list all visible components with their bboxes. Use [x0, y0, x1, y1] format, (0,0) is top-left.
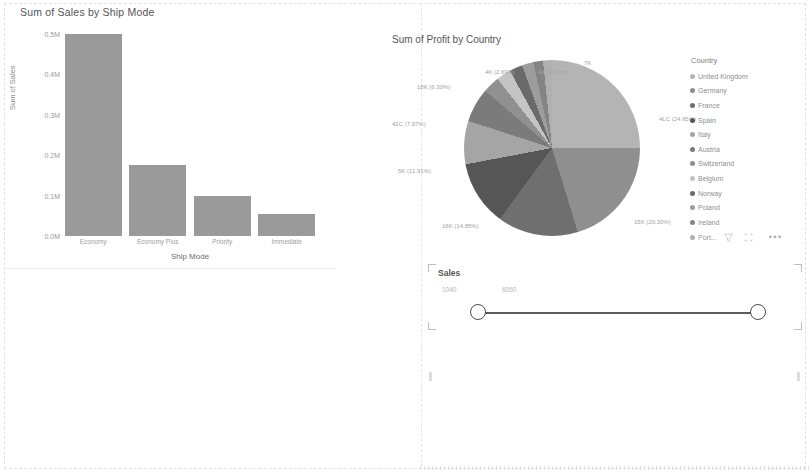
- bar[interactable]: [129, 165, 186, 236]
- bar-chart-x-axis-title: Ship Mode: [61, 252, 319, 261]
- filter-icon[interactable]: [723, 232, 734, 243]
- legend-swatch: [690, 147, 695, 152]
- legend-swatch: [690, 161, 695, 166]
- slicer-slider-track[interactable]: [478, 312, 758, 314]
- horizontal-scrollbar[interactable]: [420, 466, 810, 470]
- legend-item-belgium[interactable]: Belgium: [690, 171, 806, 186]
- legend-swatch: [690, 205, 695, 210]
- slicer-max-value[interactable]: 6060: [502, 286, 516, 293]
- pie-data-label: 5K (11.91%): [398, 168, 431, 174]
- bar-chart-y-tick: 0.0M: [44, 233, 60, 240]
- more-options-icon[interactable]: •••: [769, 232, 783, 242]
- slicer-corner-handle: [428, 322, 436, 330]
- legend-title: Country: [690, 56, 806, 65]
- legend-item-italy[interactable]: Italy: [690, 127, 806, 142]
- bar-chart-y-axis-title: Sum of Sales: [8, 65, 17, 110]
- legend-swatch: [690, 176, 695, 181]
- legend-item-germany[interactable]: Germany: [690, 84, 806, 99]
- slicer-handle-right[interactable]: [750, 304, 766, 320]
- legend-item-france[interactable]: France: [690, 98, 806, 113]
- pie-chart-title: Sum of Profit by Country: [392, 34, 501, 45]
- legend-item-united-kingdom[interactable]: United Kingdom: [690, 69, 806, 84]
- legend-swatch: [690, 103, 695, 108]
- legend-item-label: Germany: [698, 87, 727, 94]
- bar-chart-y-tick: 0.4M: [44, 71, 60, 78]
- legend-item-label: United Kingdom: [698, 73, 748, 80]
- bar-chart-x-tick: Economy: [65, 238, 122, 252]
- legend-item-label: Belgium: [698, 175, 723, 182]
- legend-item-spain[interactable]: Spain: [690, 113, 806, 128]
- legend-swatch: [690, 118, 695, 123]
- canvas-edge-tick: [429, 372, 432, 381]
- legend-item-label: Norway: [698, 190, 722, 197]
- legend-item-norway[interactable]: Norway: [690, 186, 806, 201]
- legend-swatch: [690, 191, 695, 196]
- legend-item-label: Switzerland: [698, 160, 734, 167]
- legend-item-label: Spain: [698, 117, 716, 124]
- report-canvas: Sum of Sales by Ship Mode Sum of Sales 0…: [0, 0, 812, 476]
- bar-chart-x-tick: Economy Plus: [129, 238, 186, 252]
- bar-column[interactable]: [65, 34, 122, 236]
- legend-swatch: [690, 235, 695, 240]
- legend-item-last[interactable]: Port... •••: [690, 230, 806, 245]
- bar-chart-plot-area: [61, 34, 319, 236]
- pie-data-label: 4K (2.69%): [485, 69, 515, 75]
- bar-chart-y-axis: 0.5M0.4M0.3M0.2M0.1M0.0M: [24, 34, 60, 236]
- legend-swatch: [690, 220, 695, 225]
- slicer-corner-handle: [794, 322, 802, 330]
- legend-swatch: [690, 132, 695, 137]
- bar-chart-y-tick: 0.3M: [44, 111, 60, 118]
- bar-chart-x-tick: Immediate: [258, 238, 315, 252]
- bar-chart-y-tick: 0.1M: [44, 192, 60, 199]
- sales-slicer-visual[interactable]: Sales 1040 6060: [428, 264, 802, 330]
- pie-data-label: 16K (14.85%): [442, 223, 479, 229]
- slicer-corner-handle: [794, 264, 802, 272]
- slicer-min-value[interactable]: 1040: [442, 286, 456, 293]
- legend-item-label: France: [698, 102, 720, 109]
- slicer-corner-handle: [428, 264, 436, 272]
- legend-item-label: Austria: [698, 146, 720, 153]
- pie-chart-legend[interactable]: Country United KingdomGermanyFranceSpain…: [690, 56, 806, 245]
- slicer-handle-left[interactable]: [470, 304, 486, 320]
- pie-data-label: 18K (6.30%): [417, 84, 450, 90]
- legend-swatch: [690, 88, 695, 93]
- pie-data-label: 42C (7.97%): [392, 121, 426, 127]
- legend-swatch: [690, 74, 695, 79]
- slicer-title: Sales: [438, 268, 460, 278]
- focus-mode-icon[interactable]: [743, 232, 754, 243]
- legend-item-label: Italy: [698, 131, 711, 138]
- bar-chart-y-tick: 0.5M: [44, 31, 60, 38]
- legend-item-austria[interactable]: Austria: [690, 142, 806, 157]
- slicer-value-row: 1040 6060: [442, 286, 772, 298]
- bar-chart-y-tick: 0.2M: [44, 152, 60, 159]
- bar-column[interactable]: [129, 34, 186, 236]
- bar-column[interactable]: [194, 34, 251, 236]
- pie-chart-plot-area: [464, 60, 640, 236]
- legend-item-label: Port...: [698, 234, 717, 241]
- bar-chart-visual[interactable]: Sum of Sales by Ship Mode Sum of Sales 0…: [6, 2, 336, 270]
- bar[interactable]: [65, 34, 122, 236]
- pie-data-label: 4K (3.09%): [538, 69, 568, 75]
- legend-item-ireland[interactable]: Ireland: [690, 215, 806, 230]
- bar-chart-x-tick: Priority: [194, 238, 251, 252]
- bar-chart-title: Sum of Sales by Ship Mode: [20, 6, 155, 18]
- pie-shape[interactable]: [464, 60, 640, 236]
- pie-data-label: 15K (20.30%): [634, 219, 671, 225]
- pie-chart-visual[interactable]: Sum of Profit by Country 4LC (24.95%)15K…: [386, 30, 806, 268]
- legend-item-poland[interactable]: Poland: [690, 200, 806, 215]
- bar[interactable]: [194, 196, 251, 236]
- bar[interactable]: [258, 214, 315, 236]
- bar-chart-x-axis: EconomyEconomy PlusPriorityImmediate: [61, 238, 319, 252]
- legend-item-label: Ireland: [698, 219, 719, 226]
- canvas-edge-tick: [797, 372, 800, 381]
- legend-item-switzerland[interactable]: Switzerland: [690, 157, 806, 172]
- pie-data-label: 7K: [584, 60, 591, 66]
- bar-column[interactable]: [258, 34, 315, 236]
- legend-item-label: Poland: [698, 204, 720, 211]
